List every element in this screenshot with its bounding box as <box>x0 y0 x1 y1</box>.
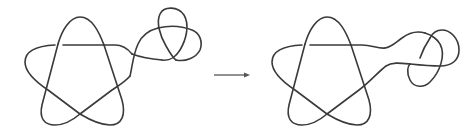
left-trefoil-top-lobe <box>158 8 187 60</box>
knot-diagram-svg <box>0 0 474 136</box>
right-knot-top-bar <box>310 45 385 48</box>
right-trefoil-left-lobe <box>408 33 443 86</box>
left-bridge-lower <box>132 54 162 60</box>
right-knot-top-loop <box>305 17 351 45</box>
right-knot-left-strand <box>288 44 327 125</box>
right-knot-lower-left <box>272 45 327 114</box>
right-knot-right-strand <box>327 45 371 125</box>
right-bridge-upper <box>385 32 425 48</box>
right-knot <box>272 17 459 125</box>
left-knot <box>25 8 201 125</box>
left-knot-lower-left <box>25 45 80 114</box>
left-knot-right-strand <box>80 45 124 125</box>
left-bridge-upper <box>130 28 158 76</box>
left-knot-lower-right <box>80 76 130 114</box>
right-trefoil-inner <box>420 38 430 58</box>
transform-arrow <box>214 73 250 78</box>
right-trefoil-right-lobe <box>410 30 459 66</box>
knot-figure <box>0 0 474 136</box>
left-knot-top-loop <box>58 17 104 45</box>
left-knot-top-bar <box>63 45 132 54</box>
left-knot-left-strand <box>41 44 80 125</box>
arrow-head-icon <box>244 73 250 78</box>
right-knot-lower-right <box>327 63 410 114</box>
